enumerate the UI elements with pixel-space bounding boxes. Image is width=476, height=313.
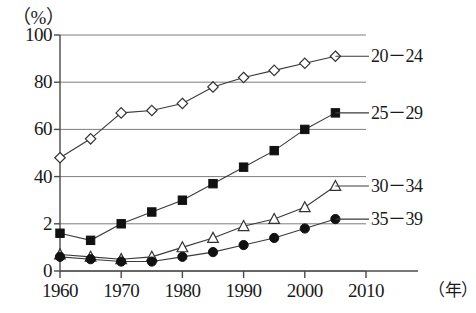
series-marker-1 — [269, 65, 279, 75]
series-label-3: 30－34 — [371, 177, 423, 195]
series-marker-4 — [239, 240, 248, 249]
chart-figure: ――――――――――――――――――― （%） 10080604020 1960… — [0, 0, 476, 313]
y-tick-label: 0 — [4, 261, 52, 280]
series-marker-4 — [55, 252, 64, 261]
series-line-1 — [60, 56, 335, 157]
series-marker-1 — [147, 105, 157, 115]
series-line-3 — [60, 186, 335, 259]
series-marker-4 — [117, 257, 126, 266]
x-tick-label: 2010 — [334, 281, 398, 300]
series-marker-1 — [238, 72, 248, 82]
series-marker-2 — [56, 229, 64, 237]
x-tick-label: 1960 — [28, 281, 92, 300]
series-line-4 — [60, 219, 335, 261]
series-marker-4 — [208, 248, 217, 257]
series-label-2: 25－29 — [371, 104, 423, 122]
series-marker-2 — [209, 179, 217, 187]
y-tick-label: 60 — [4, 119, 52, 138]
series-marker-2 — [86, 236, 94, 244]
x-tick-label: 1980 — [150, 281, 214, 300]
series-marker-3 — [269, 213, 280, 223]
series-marker-3 — [330, 180, 341, 190]
series-marker-1 — [208, 82, 218, 92]
series-marker-2 — [301, 125, 309, 133]
series-marker-4 — [270, 233, 279, 242]
series-marker-2 — [270, 146, 278, 154]
series-marker-4 — [300, 224, 309, 233]
series-marker-2 — [117, 220, 125, 228]
series-marker-1 — [300, 58, 310, 68]
y-tick-label: 100 — [4, 25, 52, 44]
x-tick-label: 1970 — [89, 281, 153, 300]
series-marker-4 — [178, 252, 187, 261]
series-marker-2 — [178, 196, 186, 204]
series-marker-3 — [299, 202, 310, 212]
series-marker-3 — [208, 232, 219, 242]
x-tick-label: 1990 — [212, 281, 276, 300]
x-axis-unit-label: （年） — [428, 281, 476, 300]
series-marker-1 — [55, 153, 65, 163]
x-tick-label: 2000 — [273, 281, 337, 300]
series-marker-4 — [147, 257, 156, 266]
series-marker-1 — [177, 98, 187, 108]
y-tick-label: 80 — [4, 72, 52, 91]
series-label-4: 35－39 — [371, 210, 423, 228]
y-tick-label: 40 — [4, 167, 52, 186]
series-marker-4 — [86, 255, 95, 264]
y-tick-label: 2 — [4, 214, 52, 233]
series-marker-2 — [239, 163, 247, 171]
series-label-1: 20－24 — [371, 47, 423, 65]
series-marker-2 — [148, 208, 156, 216]
